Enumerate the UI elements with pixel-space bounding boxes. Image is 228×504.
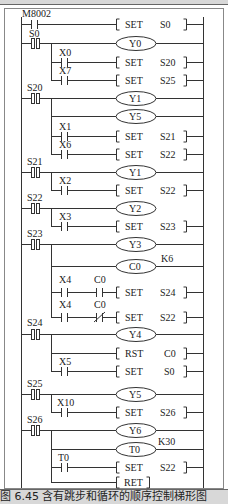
contact-label: X2	[59, 175, 71, 186]
contact-label: X7	[59, 65, 71, 76]
coil-label: C0	[129, 261, 141, 272]
operand-label: S20	[160, 57, 176, 68]
contact-label: X5	[59, 356, 71, 367]
operand-label: S22	[160, 462, 176, 473]
coil-label: Y5	[129, 111, 141, 122]
instr-label: SET	[125, 287, 143, 298]
instr-label: SET	[125, 19, 143, 30]
instr-label: SET	[125, 407, 143, 418]
contact-label: X4	[59, 274, 71, 285]
instr-label: RET	[124, 477, 143, 488]
contact-label: T0	[58, 452, 69, 463]
figure-caption: 图 6.45 含有跳步和循环的顺序控制梯形图	[0, 489, 228, 504]
step-label: S26	[27, 414, 43, 425]
instr-label: SET	[125, 221, 143, 232]
instr-label: SET	[125, 462, 143, 473]
instr-label: SET	[125, 75, 143, 86]
contact-label: C0	[94, 299, 106, 310]
operand-label: S0	[160, 19, 171, 30]
operand-label: S26	[160, 407, 176, 418]
instr-label: SET	[125, 366, 143, 377]
coil-label: Y6	[129, 425, 141, 436]
contact-label: X6	[59, 139, 71, 150]
coil-label: Y2	[129, 203, 141, 214]
step-label: S22	[27, 192, 43, 203]
coil-label: Y5	[129, 389, 141, 400]
contact-label: X0	[59, 47, 71, 58]
step-label: S23	[27, 228, 43, 239]
step-label: S25	[27, 378, 43, 389]
instr-label: SET	[125, 312, 143, 323]
operand-label: C0	[164, 348, 176, 359]
operand-label: S22	[160, 185, 176, 196]
step-label: S21	[27, 156, 43, 167]
operand-label: S21	[160, 131, 176, 142]
operand-label: S22	[160, 149, 176, 160]
coil-label: Y3	[129, 239, 141, 250]
step-label: S24	[27, 317, 43, 328]
coil-label: Y1	[129, 167, 141, 178]
contact-label: X4	[59, 299, 71, 310]
instr-label: SET	[125, 149, 143, 160]
operand-label: S24	[160, 287, 176, 298]
operand-label: S0	[164, 366, 175, 377]
operand-label: S22	[160, 312, 176, 323]
instr-label: RST	[125, 348, 143, 359]
contact-label: X3	[59, 211, 71, 222]
contact-label: X10	[57, 397, 74, 408]
param-label: K30	[158, 436, 175, 447]
instr-label: SET	[125, 185, 143, 196]
contact-label: M8002	[22, 8, 51, 19]
coil-label: Y1	[129, 93, 141, 104]
coil-label: T0	[129, 444, 140, 455]
instr-label: SET	[125, 57, 143, 68]
contact-label: C0	[94, 274, 106, 285]
instr-label: SET	[125, 131, 143, 142]
coil-label: Y0	[129, 38, 141, 49]
operand-label: S23	[160, 221, 176, 232]
coil-label: Y4	[129, 329, 141, 340]
step-label: S20	[27, 82, 43, 93]
step-label: S0	[29, 28, 40, 39]
param-label: K6	[161, 253, 173, 264]
operand-label: S25	[160, 75, 176, 86]
contact-label: X1	[59, 121, 71, 132]
